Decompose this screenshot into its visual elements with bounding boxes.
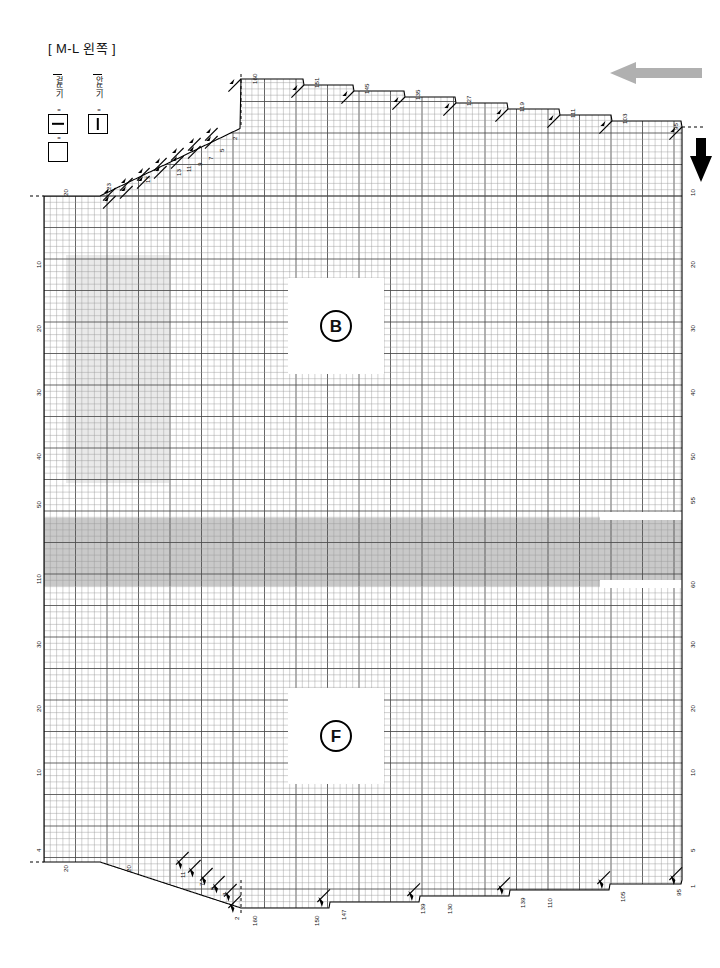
axis-label: 2: [232, 137, 238, 140]
axis-label: 105: [620, 892, 626, 902]
axis-label: 139: [520, 898, 526, 908]
badge-letter-f: F: [320, 720, 352, 752]
axis-label: 110: [547, 898, 553, 908]
decrease-marker: [205, 128, 218, 141]
axis-label: 127: [466, 96, 472, 106]
axis-label: 11: [186, 166, 192, 172]
axis-label: 30: [36, 389, 42, 396]
axis-label: 3: [222, 893, 228, 896]
axis-label: 60: [690, 581, 696, 588]
axis-label: 4: [36, 849, 42, 852]
axis-label: 30: [690, 325, 696, 332]
axis-label: 139: [420, 904, 426, 914]
axis-label: 160: [252, 74, 258, 84]
axis-label: 5: [690, 849, 696, 852]
axis-label: 130: [447, 904, 453, 914]
axis-label: 151: [314, 78, 320, 88]
axis-label: 20: [690, 261, 696, 268]
axis-label: 20: [63, 865, 69, 872]
back-panel-badge: B: [288, 278, 384, 374]
axis-label: 145: [364, 84, 370, 94]
axis-label: 23: [106, 183, 112, 190]
axis-label: 147: [341, 910, 347, 920]
axis-label: 1: [690, 885, 696, 888]
axis-label: 103: [622, 114, 628, 124]
axis-label: 7: [199, 883, 205, 886]
axis-label: 11: [180, 872, 186, 878]
chart-svg: [0, 0, 720, 968]
axis-label: 10: [36, 769, 42, 776]
axis-label: 135: [415, 90, 421, 100]
axis-label: 150: [314, 916, 320, 926]
axis-label: 10: [36, 261, 42, 268]
axis-label: 20: [36, 705, 42, 712]
axis-label: 111: [570, 109, 576, 118]
axis-label: 7: [208, 157, 214, 160]
axis-label: 50: [36, 501, 42, 508]
axis-label: 20: [36, 325, 42, 332]
axis-label: 30: [690, 641, 696, 648]
axis-label: 10: [690, 769, 696, 776]
knitting-chart-grid: [0, 0, 720, 968]
axis-label: 95: [673, 123, 679, 130]
axis-label: 160: [252, 916, 258, 926]
axis-label: 55: [690, 497, 696, 504]
axis-label: 30: [36, 641, 42, 648]
axis-label: 119: [519, 102, 525, 112]
axis-label: 40: [690, 389, 696, 396]
axis-label: 13: [176, 169, 182, 176]
axis-label: 10: [690, 189, 696, 196]
axis-label: 17: [145, 176, 151, 183]
axis-label: 20: [126, 865, 132, 872]
axis-label: 5: [210, 887, 216, 890]
axis-label: 2: [234, 917, 240, 920]
axis-label: 95: [676, 889, 682, 896]
axis-label: 20: [63, 189, 69, 196]
badge-letter-b: B: [320, 310, 352, 342]
front-panel-badge: F: [288, 688, 384, 784]
axis-label: 5: [219, 149, 225, 152]
axis-label: 20: [690, 705, 696, 712]
axis-label: 110: [36, 574, 42, 584]
axis-label: 50: [690, 453, 696, 460]
axis-label: 9: [197, 163, 203, 166]
axis-label: 40: [36, 453, 42, 460]
decrease-marker: [228, 79, 241, 92]
